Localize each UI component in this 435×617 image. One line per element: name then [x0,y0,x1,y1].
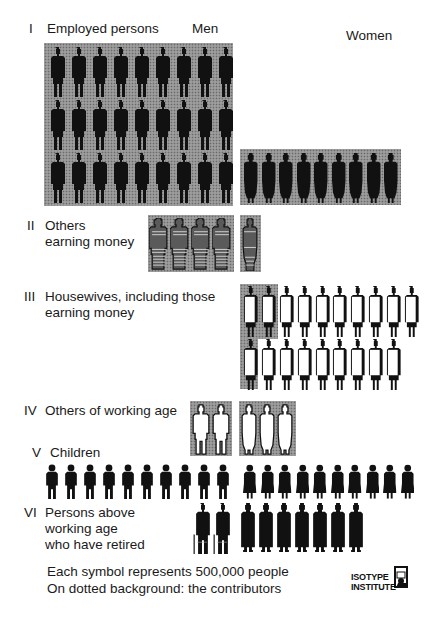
outline-woman-icon [240,404,258,455]
girl-icon [261,464,275,499]
girl-icon [331,464,345,499]
housewife-icon [384,339,402,390]
boy-icon [64,464,78,499]
woman-icon [347,153,365,203]
girl-icon [348,464,362,499]
woman-icon [260,153,278,203]
retired-woman-icon [239,503,257,554]
woman-icon [312,153,330,203]
boy-icon [45,464,59,499]
man-icon [110,100,130,152]
housewife-icon [259,339,277,390]
housewife-icon [384,286,402,337]
woman-icon [277,153,295,203]
section-3-row-1 [241,286,420,337]
man-icon [194,47,214,99]
section-6-women-row [239,503,365,554]
section-6-label: VIPersons above working age who have ret… [24,505,145,553]
man-icon [47,100,67,152]
man-icon [173,47,193,99]
retired-man-icon [192,503,212,554]
man-icon [110,47,130,99]
retired-woman-icon [311,503,329,554]
boy-icon [102,464,116,499]
housewife-icon [366,339,384,390]
retired-woman-icon [293,503,311,554]
section-1-men-row-1 [47,47,235,99]
striped-man-icon [191,218,211,271]
girl-icon [313,464,327,499]
man-icon [110,153,130,205]
housewife-icon [313,286,331,337]
cropped-title: ▔ ▔ ▔ [238,0,279,7]
woman-icon [330,153,348,203]
housewife-icon [277,286,295,337]
man-icon [47,47,67,99]
girl-icon [401,464,415,499]
man-icon [89,153,109,205]
housewife-icon [241,286,259,337]
girl-icon [278,464,292,499]
footer-contributors-note: On dotted background: the contributors [47,580,281,597]
housewife-icon [259,286,277,337]
section-1-roman: I [29,21,47,37]
column-header-women: Women [346,28,392,44]
logo-text-line1: ISOTYPE [351,572,389,582]
section-2-men-row [149,218,232,271]
housewife-icon [277,339,295,390]
housewife-icon [241,339,259,390]
boy-icon [178,464,192,499]
housewife-icon [313,339,331,390]
woman-icon [365,153,383,203]
man-icon [152,100,172,152]
section-1-women-row [242,153,400,203]
boy-icon [140,464,154,499]
section-3-label: IIIHousewives, including those earning m… [24,289,215,321]
man-icon [131,153,151,205]
housewife-icon [295,339,313,390]
girl-icon [383,464,397,499]
boy-icon [216,464,230,499]
section-1-men-row-2 [47,100,235,152]
housewife-icon [366,286,384,337]
retired-woman-icon [329,503,347,554]
man-icon [89,100,109,152]
housewife-icon [295,286,313,337]
retired-woman-icon [347,503,365,554]
boy-icon [159,464,173,499]
section-3-row-2 [241,339,402,390]
man-icon [47,153,67,205]
section-4-label: IVOthers of working age [24,403,177,419]
striped-woman-icon [241,218,259,271]
man-icon [131,100,151,152]
woman-icon [382,153,400,203]
boy-icon [197,464,211,499]
section-5-boys-row [45,464,230,499]
section-5-girls-row [243,464,414,499]
retired-woman-icon [275,503,293,554]
section-5-label: VChildren [32,445,100,461]
housewife-icon [348,286,366,337]
footer-unit-note: Each symbol represents 500,000 people [47,563,289,580]
housewife-icon [402,286,420,337]
man-icon [173,153,193,205]
man-icon [89,47,109,99]
section-4-women-row [240,404,294,455]
section-1-men-row-3 [47,153,235,205]
housewife-icon [330,286,348,337]
striped-man-icon [170,218,190,271]
man-icon [131,47,151,99]
section-4-men-row [191,404,231,455]
section-2-label: IIOthers earning money [27,218,134,250]
man-icon [215,47,235,99]
girl-icon [243,464,257,499]
outline-woman-icon [258,404,276,455]
man-icon [173,100,193,152]
outline-man-icon [191,404,211,455]
column-header-men: Men [192,21,218,37]
man-icon [152,47,172,99]
man-icon [68,47,88,99]
striped-man-icon [212,218,232,271]
outline-man-icon [211,404,231,455]
housewife-icon [330,339,348,390]
